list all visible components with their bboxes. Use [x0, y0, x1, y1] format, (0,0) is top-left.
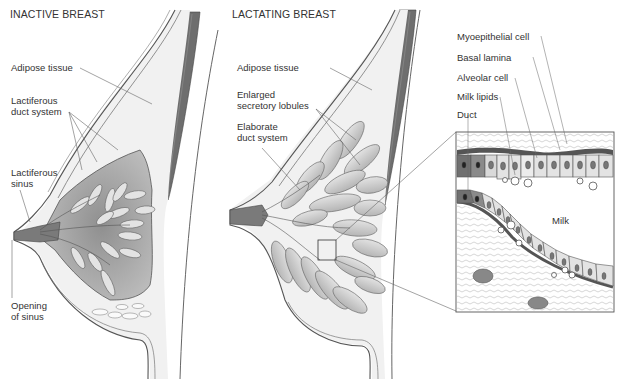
label-basal-lamina: Basal lamina [457, 52, 511, 63]
breast-anatomy-illustration [0, 0, 622, 379]
label-enlarged-secretory-lobules: Enlarged secretory lobules [237, 89, 309, 111]
label-adipose-tissue-inactive: Adipose tissue [11, 62, 73, 73]
inactive-breast-title: INACTIVE BREAST [10, 8, 105, 20]
label-opening-of-sinus: Opening of sinus [11, 300, 47, 322]
diagram-stage: INACTIVE BREAST LACTATING BREAST Adipose… [0, 0, 622, 379]
label-lactiferous-sinus: Lactiferous sinus [11, 167, 57, 189]
label-adipose-tissue-lactating: Adipose tissue [237, 62, 299, 73]
label-myoepithelial-cell: Myoepithelial cell [457, 31, 529, 42]
label-milk: Milk [552, 215, 569, 226]
label-elaborate-duct-system: Elaborate duct system [237, 121, 288, 143]
label-milk-lipids: Milk lipids [457, 91, 498, 102]
label-lactiferous-duct-system: Lactiferous duct system [11, 95, 62, 117]
lactating-breast-title: LACTATING BREAST [232, 8, 336, 20]
label-alveolar-cell: Alveolar cell [457, 72, 508, 83]
label-duct: Duct [457, 109, 477, 120]
